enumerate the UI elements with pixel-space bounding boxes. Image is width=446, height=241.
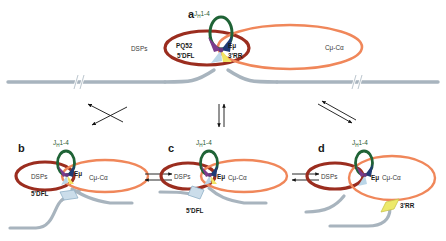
panel-b-dsps-label: DSPs: [31, 173, 47, 180]
panel-b: b JH1-4 DSPs Eμ 5'DFL Cμ-Cα: [10, 139, 148, 228]
panel-b-letter: b: [18, 142, 25, 154]
panel-a-jh-label: JH1-4: [194, 10, 210, 19]
panel-d-rr-element: [381, 199, 399, 212]
panel-c-jh-label: JH1-4: [196, 139, 212, 148]
panel-b-jh-label: JH1-4: [53, 139, 69, 148]
panel-d-rr-label: 3'RR: [400, 202, 415, 209]
panel-c-dsps-label: DSPs: [174, 173, 190, 180]
panel-d-dna-strand: [306, 196, 436, 226]
panel-d-emu-label: Eμ: [371, 174, 379, 182]
panel-c-letter: c: [168, 142, 174, 154]
panel-a-dna-strand: [8, 70, 438, 89]
panel-b-emu-label: Eμ: [74, 170, 82, 178]
panel-d-constant-label: Cμ-Cα: [382, 174, 401, 182]
panel-a-dsps-label: DSPs: [131, 45, 147, 52]
panel-a-rr-label: 3'RR: [228, 52, 243, 59]
panel-d: d JH1-4 DSPs Eμ 3'RR Cμ-Cα: [306, 139, 436, 226]
panel-d-letter: d: [318, 142, 325, 154]
panel-d-jh-label: JH1-4: [352, 139, 368, 148]
panel-c-emu-label: Eμ: [217, 173, 225, 181]
panel-b-constant-label: Cμ-Cα: [89, 174, 108, 182]
panel-c-dna-strand: [160, 188, 266, 203]
panel-b-dfl-label: 5'DFL: [31, 190, 49, 197]
arrow-a-to-d: [318, 101, 356, 123]
panel-d-dsps-label: DSPs: [321, 173, 337, 180]
panel-c-constant-label: Cμ-Cα: [228, 174, 247, 182]
panel-a-pq52-label: PQ52: [176, 42, 193, 50]
panel-a-emu-label: Eμ: [228, 42, 236, 50]
panel-a: a: [8, 8, 438, 89]
panel-c-dfl-label: 5'DFL: [186, 207, 204, 214]
arrow-a-to-b: [88, 104, 127, 125]
panel-c: c JH1-4 DSPs Eμ 5'DFL Cμ-Cα: [160, 139, 287, 214]
panel-a-constant-label: Cμ-Cα: [325, 44, 344, 52]
panel-a-dfl-label: 5'DFL: [177, 52, 195, 59]
figure-canvas: a: [0, 0, 446, 241]
arrow-a-to-c: [219, 104, 224, 127]
